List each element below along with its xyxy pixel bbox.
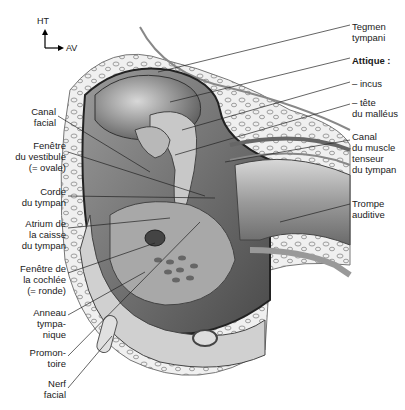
orientation-arrows [42, 29, 64, 51]
label-attique: Attique : [352, 55, 391, 66]
label-canal-muscle-tenseur: Canal du muscle tenseur du tympan [352, 131, 396, 175]
label-trompe-auditive: Trompe auditive [352, 198, 385, 220]
ear-anatomy-diagram: HT AV Canal facial Fenêtre du vestibule … [0, 0, 405, 410]
label-fenetre-cochlee: Fenêtre de la cochlée (= ronde) [4, 263, 66, 296]
label-canal-facial: Canal facial [4, 106, 56, 128]
label-fenetre-vestibule: Fenêtre du vestibule (= ovale) [4, 140, 66, 173]
label-incus: – incus [352, 78, 382, 89]
orientation-forward-label: AV [66, 43, 77, 53]
label-tegmen-tympani: Tegmen tympani [352, 21, 386, 43]
label-anneau-tympanique: Anneau tympa- nique [4, 307, 66, 340]
label-atrium: Atrium de la caisse du tympan [4, 218, 66, 251]
label-corde-tympan: Corde du tympan [4, 186, 66, 208]
label-tete-malleus: – tête du malléus [352, 97, 398, 119]
label-nerf-facial: Nerf facial [4, 378, 66, 400]
label-promontoire: Promon- toire [4, 347, 66, 369]
orientation-up-label: HT [37, 16, 49, 26]
